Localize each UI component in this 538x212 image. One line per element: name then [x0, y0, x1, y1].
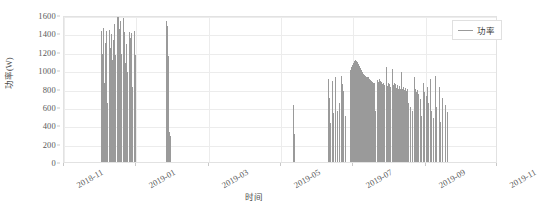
y-tick-label: 0: [52, 158, 56, 168]
x-tick-label: 2019-03: [220, 167, 250, 190]
data-spike: [436, 107, 437, 162]
y-tick-mark: [57, 163, 60, 164]
x-tick-mark: [352, 163, 353, 166]
x-tick-label-wrap: 2019-07: [360, 167, 389, 177]
y-tick-mark: [57, 34, 60, 35]
y-tick-mark: [57, 16, 60, 17]
data-spike: [294, 134, 295, 162]
x-tick-mark: [63, 163, 64, 166]
y-tick-label: 1400: [38, 29, 56, 39]
x-tick-mark: [135, 163, 136, 166]
x-tick-label: 2019-09: [437, 167, 467, 190]
x-tick-mark: [496, 163, 497, 166]
x-tick-label: 2019-05: [292, 167, 322, 190]
y-tick-label: 600: [43, 103, 56, 113]
x-tick-label: 2018-11: [75, 167, 105, 190]
x-tick-mark: [425, 163, 426, 166]
x-tick-label-wrap: 2019-03: [216, 167, 245, 177]
y-tick-mark: [57, 144, 60, 145]
x-axis-tick-labels: 2018-112019-012019-032019-052019-072019-…: [63, 163, 497, 193]
chart-legend: 功率: [452, 20, 502, 40]
y-tick-mark: [57, 89, 60, 90]
y-tick-mark: [57, 71, 60, 72]
y-tick-label: 1200: [38, 48, 56, 58]
x-tick-label: 2019-11: [508, 167, 538, 190]
x-tick-label-wrap: 2019-09: [433, 167, 462, 177]
x-tick-label: 2019-01: [147, 167, 177, 190]
y-tick-label: 200: [43, 140, 56, 150]
data-spike: [345, 116, 346, 162]
y-tick-mark: [57, 107, 60, 108]
data-spike: [442, 98, 443, 162]
x-tick-label-wrap: 2019-11: [504, 167, 533, 177]
data-spike: [447, 112, 448, 162]
x-tick-label-wrap: 2019-01: [143, 167, 172, 177]
y-tick-label: 400: [43, 121, 56, 131]
data-spike: [170, 136, 171, 162]
y-tick-label: 1600: [38, 11, 56, 21]
data-spike: [433, 118, 434, 162]
x-axis-title: 时间: [0, 190, 508, 202]
x-tick-label: 2019-07: [364, 167, 394, 190]
legend-line-swatch: [458, 30, 473, 31]
y-tick-label: 800: [43, 85, 56, 95]
data-spike: [445, 105, 446, 162]
power-series-spikes: [64, 17, 496, 162]
data-spike: [440, 122, 441, 162]
data-spike: [135, 55, 136, 162]
y-axis-tick-labels: 02004006008001000120014001600: [0, 16, 60, 163]
y-axis-title: 功率(W): [2, 57, 14, 89]
plot-area: [63, 16, 497, 163]
y-tick-label: 1000: [38, 66, 56, 76]
x-tick-label-wrap: 2019-05: [288, 167, 317, 177]
x-tick-mark: [208, 163, 209, 166]
y-tick-mark: [57, 52, 60, 53]
y-tick-mark: [57, 126, 60, 127]
x-tick-label-wrap: 2018-11: [71, 167, 100, 177]
x-tick-mark: [280, 163, 281, 166]
legend-label-power: 功率: [477, 24, 495, 36]
